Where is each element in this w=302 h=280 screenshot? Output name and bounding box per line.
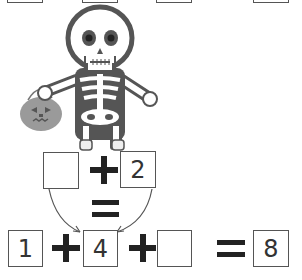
right-curved-arrow <box>117 189 152 232</box>
plus-icon <box>90 156 118 184</box>
left-curved-arrow <box>49 189 80 232</box>
result-box-eight: 8 <box>253 230 289 267</box>
middle-empty-box[interactable] <box>43 152 79 189</box>
bottom-box-four: 4 <box>83 230 118 267</box>
bottom-empty-box[interactable] <box>157 230 192 267</box>
skull-icon <box>68 7 132 72</box>
bottom-box-one: 1 <box>8 230 43 267</box>
plus-icon <box>52 234 80 262</box>
equals-icon <box>217 240 245 257</box>
middle-box-two: 2 <box>120 151 156 188</box>
bottom-box1-value: 1 <box>18 235 33 263</box>
result-value: 8 <box>263 235 278 263</box>
plus-icon <box>129 234 156 262</box>
pumpkin-pail-icon <box>20 97 62 131</box>
middle-right-box-value: 2 <box>130 156 145 184</box>
equals-icon <box>92 200 119 217</box>
bottom-box2-value: 4 <box>93 235 108 263</box>
